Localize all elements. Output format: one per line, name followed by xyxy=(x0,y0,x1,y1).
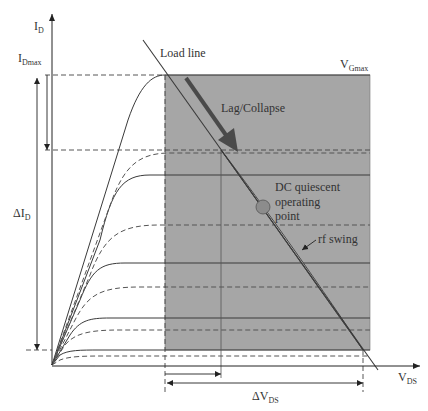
vgmax-label: VGmax xyxy=(340,57,368,73)
dc-quiescent-label-3: point xyxy=(275,209,300,223)
load-line-label: Load line xyxy=(160,46,206,60)
fet-iv-diagram: ID IDmax ΔID VDS ΔVDS VGmax Load line La… xyxy=(0,0,428,411)
delta-id-label: ΔID xyxy=(13,206,31,222)
lag-collapse-label: Lag/Collapse xyxy=(221,101,285,115)
dc-quiescent-label-1: DC quiescent xyxy=(275,180,341,194)
dc-quiescent-point xyxy=(256,200,270,214)
x-axis-label: VDS xyxy=(398,370,417,386)
delta-vds-label: ΔVDS xyxy=(252,389,279,405)
y-axis-label: ID xyxy=(34,19,44,35)
idmax-label: IDmax xyxy=(18,51,42,67)
rf-swing-label: rf swing xyxy=(318,232,358,246)
dc-quiescent-label-2: operating xyxy=(275,195,320,209)
